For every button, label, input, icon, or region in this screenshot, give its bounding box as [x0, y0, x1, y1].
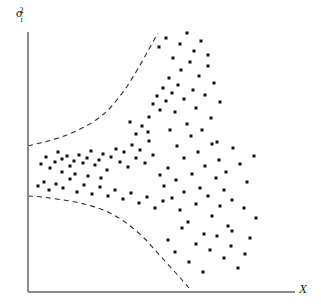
envelope-curves-group: [28, 33, 189, 288]
data-point: [174, 111, 177, 114]
data-point: [171, 197, 174, 200]
data-point: [237, 267, 240, 270]
data-point: [159, 109, 162, 112]
data-point: [215, 177, 218, 180]
data-point: [177, 84, 180, 87]
data-point: [106, 169, 109, 172]
data-point: [87, 175, 90, 178]
data-point: [219, 205, 222, 208]
data-point: [162, 200, 165, 203]
data-point: [223, 257, 226, 260]
data-point: [76, 191, 79, 194]
data-point: [61, 158, 64, 161]
lower-envelope-curve: [28, 196, 189, 288]
data-point: [174, 251, 177, 254]
data-point: [204, 94, 207, 97]
data-point: [216, 235, 219, 238]
data-point: [130, 192, 133, 195]
data-point: [225, 171, 228, 174]
data-point: [114, 189, 117, 192]
data-point: [199, 187, 202, 190]
y-axis-label-superscript: 2: [19, 6, 23, 15]
data-point: [183, 98, 186, 101]
data-point: [195, 243, 198, 246]
data-point: [147, 131, 150, 134]
data-point: [83, 184, 86, 187]
data-point: [195, 203, 198, 206]
data-point: [62, 187, 65, 190]
data-point: [69, 165, 72, 168]
data-point: [213, 82, 216, 85]
data-point: [123, 151, 126, 154]
data-point: [179, 43, 182, 46]
data-point: [119, 161, 122, 164]
data-point: [246, 181, 249, 184]
data-point: [204, 165, 207, 168]
data-point: [131, 144, 134, 147]
y-axis-label: σ2i: [16, 6, 29, 23]
data-point: [186, 123, 189, 126]
y-axis-label-subscript: i: [20, 15, 22, 24]
data-point: [167, 167, 170, 170]
data-point: [179, 209, 182, 212]
data-point: [162, 87, 165, 90]
data-point: [210, 117, 213, 120]
data-point: [94, 164, 97, 167]
data-point: [141, 125, 144, 128]
data-point: [207, 54, 210, 57]
data-point: [40, 163, 43, 166]
data-point: [171, 92, 174, 95]
data-point: [107, 195, 110, 198]
data-point: [232, 147, 235, 150]
data-point: [82, 162, 85, 165]
data-point: [74, 173, 77, 176]
data-point: [180, 69, 183, 72]
data-point: [99, 186, 102, 189]
heteroskedasticity-figure: σ2i X: [0, 0, 321, 308]
data-point: [61, 171, 64, 174]
data-point: [165, 100, 168, 103]
data-point: [154, 207, 157, 210]
data-point: [165, 37, 168, 40]
data-point: [98, 159, 101, 162]
data-point: [189, 61, 192, 64]
data-point: [73, 160, 76, 163]
data-point: [45, 156, 48, 159]
data-point: [86, 157, 89, 160]
data-point: [115, 148, 118, 151]
data-point: [211, 143, 214, 146]
data-point: [255, 217, 258, 220]
data-point: [69, 178, 72, 181]
data-point: [43, 181, 46, 184]
data-point: [231, 230, 234, 233]
upper-envelope-curve: [28, 33, 158, 146]
data-point: [175, 179, 178, 182]
data-point: [159, 174, 162, 177]
data-point: [244, 253, 247, 256]
data-point: [183, 191, 186, 194]
data-point: [90, 150, 93, 153]
data-point: [197, 151, 200, 154]
data-point: [207, 65, 210, 68]
data-point: [187, 221, 190, 224]
data-point: [211, 215, 214, 218]
data-point: [191, 173, 194, 176]
data-point: [55, 183, 58, 186]
data-point: [110, 156, 113, 159]
data-point: [253, 155, 256, 158]
data-point: [193, 50, 196, 53]
data-point: [102, 153, 105, 156]
data-point: [243, 207, 246, 210]
data-point: [190, 135, 193, 138]
data-point: [202, 271, 205, 274]
scatter-plot-canvas: [0, 0, 321, 308]
data-point: [249, 237, 252, 240]
data-point: [169, 129, 172, 132]
data-point: [192, 89, 195, 92]
data-point: [158, 46, 161, 49]
data-point: [207, 195, 210, 198]
data-point: [201, 129, 204, 132]
data-point: [78, 154, 81, 157]
data-point: [181, 227, 184, 230]
data-point: [168, 77, 171, 80]
